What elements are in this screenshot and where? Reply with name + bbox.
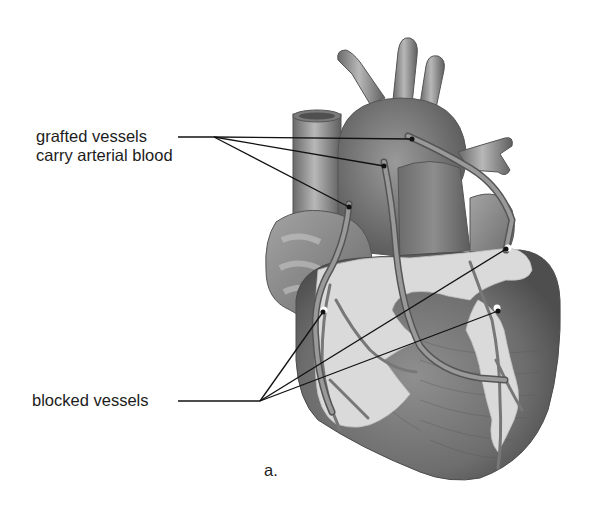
panel-label: a. <box>264 461 278 480</box>
aortic-branches <box>338 38 445 108</box>
heart-bypass-diagram: grafted vessels carry arterial blood blo… <box>0 0 592 510</box>
grafted-vessels-label: grafted vessels <box>36 127 147 146</box>
pulmonary-trunk <box>398 162 470 263</box>
grafted-vessels-sublabel: carry arterial blood <box>36 146 173 165</box>
blocked-vessels-label: blocked vessels <box>32 391 148 410</box>
heart-illustration <box>0 0 592 510</box>
